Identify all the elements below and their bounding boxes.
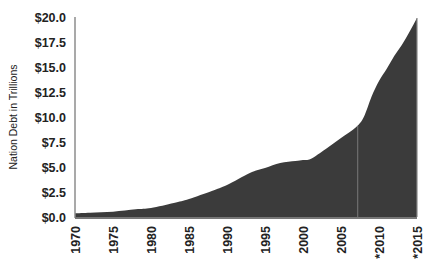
- y-tick-label: $20.0: [35, 11, 66, 25]
- debt-area-series: [75, 18, 417, 217]
- x-tick-label: 2000: [297, 226, 311, 254]
- x-tick-label: *2010: [373, 226, 387, 259]
- y-tick-label: $17.5: [35, 36, 66, 50]
- y-tick-label: $12.5: [35, 86, 66, 100]
- x-tick-label: 1975: [107, 226, 121, 254]
- x-tick-label: 2005: [335, 226, 349, 254]
- y-axis-label: Nation Debt in Trillions: [7, 64, 19, 169]
- x-tick-label: 1980: [145, 226, 159, 254]
- y-tick-label: $7.5: [42, 136, 66, 150]
- x-tick-label: 1995: [259, 226, 273, 254]
- x-tick-label: 1970: [69, 226, 83, 254]
- y-tick-label: $15.0: [35, 61, 66, 75]
- y-tick-label: $10.0: [35, 111, 66, 125]
- x-tick-label: 1990: [221, 226, 235, 254]
- x-tick-label: 1985: [183, 226, 197, 254]
- y-tick-label: $2.5: [42, 186, 66, 200]
- national-debt-area-chart: Nation Debt in Trillions $0.0$2.5$5.0$7.…: [0, 0, 429, 269]
- y-tick-label: $5.0: [42, 161, 66, 175]
- x-axis-ticks: 19701975198019851990199520002005*2010*20…: [69, 226, 425, 259]
- x-tick-label: *2015: [411, 226, 425, 259]
- y-tick-label: $0.0: [42, 211, 66, 225]
- y-axis-ticks: $0.0$2.5$5.0$7.5$10.0$12.5$15.0$17.5$20.…: [35, 11, 66, 225]
